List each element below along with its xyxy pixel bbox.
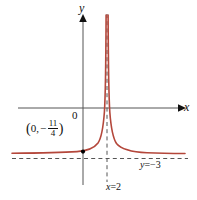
horizontal-asymptote-label-value: −3 bbox=[150, 159, 161, 170]
origin-label: 0 bbox=[72, 110, 78, 121]
point-label-close-paren: ) bbox=[59, 122, 64, 136]
point-label-fraction: 11 4 bbox=[48, 119, 59, 139]
point-label-sign: − bbox=[39, 123, 47, 134]
y-intercept-point-label: (0,− 11 4 ) bbox=[26, 119, 63, 139]
vertical-asymptote-label: x=2 bbox=[106, 182, 121, 192]
math-graph-figure: y x 0 x=2 y=−3 (0,− 11 4 ) bbox=[0, 0, 197, 200]
fraction-numerator: 11 bbox=[48, 119, 59, 128]
y-axis-arrow-icon bbox=[79, 14, 87, 22]
y-intercept-point-marker bbox=[81, 150, 85, 154]
vertical-asymptote-label-value: 2 bbox=[116, 181, 121, 192]
y-axis-label: y bbox=[79, 2, 84, 14]
graph-canvas bbox=[0, 0, 197, 200]
horizontal-asymptote-label: y=−3 bbox=[140, 160, 161, 170]
x-axis-label: x bbox=[184, 101, 189, 113]
curve-right-branch bbox=[108, 15, 185, 154]
fraction-denominator: 4 bbox=[50, 129, 57, 138]
